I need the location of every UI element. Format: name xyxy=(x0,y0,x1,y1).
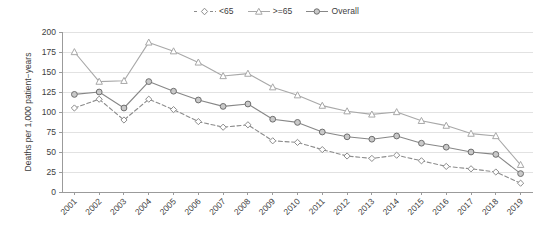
data-point-marker-diamond xyxy=(344,153,350,159)
data-point-marker-diamond xyxy=(369,155,375,161)
x-tick-label: 2005 xyxy=(158,196,179,217)
x-tick-label: 2014 xyxy=(381,196,402,217)
data-point-marker-diamond xyxy=(418,158,424,164)
data-point-marker-diamond xyxy=(71,105,77,111)
x-tick-label: 2009 xyxy=(257,196,278,217)
data-point-marker-circle xyxy=(270,116,276,122)
data-point-marker-circle xyxy=(171,88,177,94)
series-65 xyxy=(71,39,524,167)
x-axis-ticks: 2001200220032004200520062007200820092010… xyxy=(58,192,525,217)
y-gridlines: 0255075100125150175200 xyxy=(42,27,533,197)
y-axis-label: Deaths per 1,000 patient−years xyxy=(23,53,33,172)
x-tick-label: 2019 xyxy=(505,196,526,217)
data-point-marker-circle xyxy=(344,134,350,140)
data-point-marker-circle xyxy=(121,105,127,111)
y-tick-label: 50 xyxy=(47,147,57,157)
y-tick-label: 125 xyxy=(42,87,56,97)
y-tick-label: 75 xyxy=(47,127,57,137)
data-point-marker-circle xyxy=(468,149,474,155)
x-tick-label: 2002 xyxy=(83,196,104,217)
data-point-marker-diamond xyxy=(195,119,201,125)
series-line xyxy=(74,42,520,164)
y-tick-label: 175 xyxy=(42,47,56,57)
chart-plot-area: 0255075100125150175200Deaths per 1,000 p… xyxy=(0,0,553,227)
data-point-marker-circle xyxy=(220,104,226,110)
y-tick-label: 0 xyxy=(51,187,56,197)
x-tick-label: 2001 xyxy=(58,196,79,217)
x-tick-label: 2012 xyxy=(331,196,352,217)
x-tick-label: 2015 xyxy=(405,196,426,217)
data-point-marker-circle xyxy=(96,89,102,95)
x-tick-label: 2011 xyxy=(307,196,327,216)
data-point-marker-circle xyxy=(146,79,152,85)
x-tick-label: 2004 xyxy=(133,196,154,217)
data-point-marker-triangle xyxy=(245,70,251,76)
data-point-marker-diamond xyxy=(443,163,449,169)
data-point-marker-triangle xyxy=(146,39,152,45)
x-tick-label: 2017 xyxy=(455,196,476,217)
data-point-marker-diamond xyxy=(518,180,524,186)
x-tick-label: 2018 xyxy=(480,196,501,217)
data-point-marker-circle xyxy=(195,97,201,103)
data-point-marker-diamond xyxy=(394,152,400,158)
x-tick-label: 2007 xyxy=(207,196,228,217)
data-point-marker-circle xyxy=(518,171,524,177)
data-point-marker-triangle xyxy=(195,59,201,65)
y-tick-label: 150 xyxy=(42,67,56,77)
data-point-marker-circle xyxy=(71,92,77,98)
data-point-marker-circle xyxy=(245,101,251,107)
x-tick-label: 2006 xyxy=(182,196,203,217)
data-point-marker-diamond xyxy=(270,138,276,144)
data-point-marker-circle xyxy=(369,136,375,142)
x-tick-label: 2008 xyxy=(232,196,253,217)
chart-container: <65 >=65 Overall 0255075100125150175200D… xyxy=(0,0,553,227)
x-tick-label: 2010 xyxy=(281,196,302,217)
data-point-marker-circle xyxy=(419,140,425,146)
data-point-marker-diamond xyxy=(294,139,300,145)
data-point-marker-diamond xyxy=(245,122,251,128)
x-tick-label: 2013 xyxy=(356,196,377,217)
data-point-marker-diamond xyxy=(468,166,474,172)
y-tick-label: 25 xyxy=(47,167,57,177)
series-65 xyxy=(71,96,523,186)
x-tick-label: 2016 xyxy=(430,196,451,217)
data-point-marker-circle xyxy=(394,133,400,139)
data-point-marker-circle xyxy=(493,152,499,158)
x-tick-label: 2003 xyxy=(108,196,129,217)
y-tick-label: 100 xyxy=(42,107,56,117)
data-point-marker-circle xyxy=(295,120,301,126)
data-point-marker-triangle xyxy=(269,84,275,90)
data-point-marker-circle xyxy=(319,129,325,135)
y-tick-label: 200 xyxy=(42,27,56,37)
data-point-marker-diamond xyxy=(220,124,226,130)
data-point-marker-diamond xyxy=(493,169,499,175)
data-point-marker-circle xyxy=(443,144,449,150)
